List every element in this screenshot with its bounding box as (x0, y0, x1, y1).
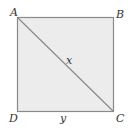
vertex-label-d: D (8, 112, 18, 125)
diagonal-label-x: x (66, 54, 73, 67)
vertex-label-a: A (9, 6, 18, 19)
vertex-label-b: B (115, 8, 124, 21)
vertex-label-c: C (116, 112, 125, 125)
square-diagram: A B D C x y (0, 0, 132, 130)
side-label-y: y (59, 112, 67, 125)
